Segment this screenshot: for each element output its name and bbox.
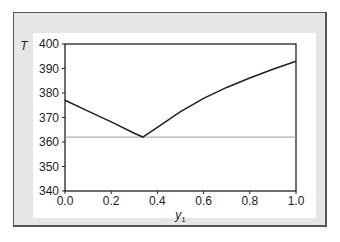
plot-area: 3403503603703803904000.00.20.40.60.81.0T…: [20, 37, 304, 224]
x-tick-label: 1.0: [288, 194, 305, 208]
y-tick-label: 360: [39, 135, 59, 149]
x-tick-label: 0.4: [149, 194, 166, 208]
y-tick-label: 390: [39, 62, 59, 76]
y-tick-label: 370: [39, 111, 59, 125]
x-tick-label: 0.6: [195, 194, 212, 208]
x-tick-label: 0.8: [241, 194, 258, 208]
plot-border: [65, 44, 296, 191]
chart-svg: 3403503603703803904000.00.20.40.60.81.0T…: [0, 0, 340, 242]
x-tick-label: 0.2: [103, 194, 120, 208]
x-axis-title: y1: [174, 208, 186, 224]
x-tick-label: 0.0: [57, 194, 74, 208]
y-tick-label: 350: [39, 160, 59, 174]
y-axis-title: T: [20, 39, 29, 53]
y-tick-label: 380: [39, 86, 59, 100]
y-tick-label: 400: [39, 37, 59, 51]
